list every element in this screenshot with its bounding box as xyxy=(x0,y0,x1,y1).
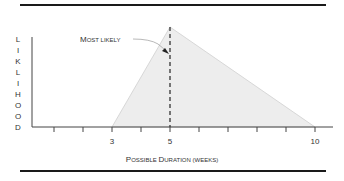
x-ticks xyxy=(54,127,315,132)
distribution-area xyxy=(112,27,315,127)
svg-text:I: I xyxy=(17,79,19,88)
svg-text:L: L xyxy=(16,35,21,44)
tick-label-3: 3 xyxy=(110,137,115,146)
svg-text:O: O xyxy=(15,112,21,121)
svg-text:K: K xyxy=(15,57,21,66)
y-axis-label: L I K L I H O O D xyxy=(15,35,21,132)
tick-label-5: 5 xyxy=(168,137,173,146)
tick-label-10: 10 xyxy=(311,137,320,146)
x-axis-label: POSSIBLE DURATION (WEEKS) xyxy=(126,155,218,164)
svg-text:I: I xyxy=(17,46,19,55)
most-likely-label: MOST LIKELY xyxy=(80,35,120,44)
svg-text:O: O xyxy=(15,101,21,110)
triangular-distribution-chart: 3 5 10 MOST LIKELY L I K L I H O O D POS… xyxy=(0,0,344,181)
svg-text:D: D xyxy=(15,123,21,132)
svg-text:H: H xyxy=(15,90,21,99)
svg-text:L: L xyxy=(16,68,21,77)
